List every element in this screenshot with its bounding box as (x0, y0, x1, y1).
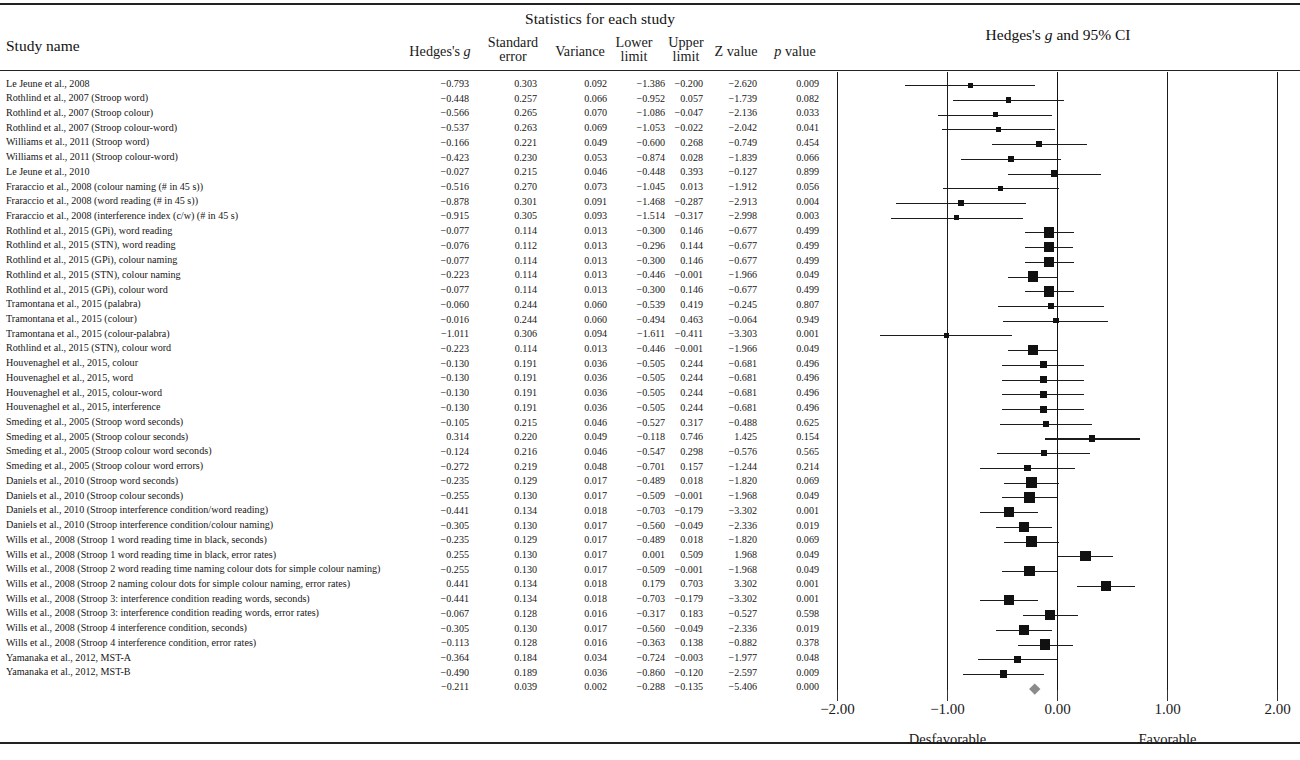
cell-variance: 0.017 (547, 490, 607, 501)
cell-hedges-g: −0.211 (409, 681, 469, 692)
effect-size-marker (944, 333, 949, 338)
cell-standard-error: 0.134 (477, 593, 537, 604)
study-name-cell: Rothlind et al., 2007 (Stroop word) (6, 92, 148, 103)
cell-p-value: 0.499 (759, 255, 819, 266)
table-row: Daniels et al., 2010 (Stroop colour seco… (0, 490, 830, 505)
study-name-cell: Williams et al., 2011 (Stroop colour-wor… (6, 151, 178, 162)
cell-upper-limit: 0.244 (643, 358, 703, 369)
cell-upper-limit: −0.179 (643, 505, 703, 516)
effect-size-marker (1040, 391, 1047, 398)
cell-upper-limit: 0.183 (643, 608, 703, 619)
cell-hedges-g: −0.124 (409, 446, 469, 457)
cell-standard-error: 0.114 (477, 225, 537, 236)
cell-z-value: −3.302 (697, 593, 757, 604)
confidence-interval-line (996, 630, 1052, 631)
effect-size-marker (1006, 97, 1011, 102)
cell-standard-error: 0.244 (477, 299, 537, 310)
confidence-interval-line (980, 512, 1038, 513)
cell-hedges-g: 0.314 (409, 431, 469, 442)
cell-variance: 0.013 (547, 240, 607, 251)
summary-row: −0.2110.0390.002−0.288−0.135−5.4060.000 (0, 681, 830, 696)
cell-standard-error: 0.301 (477, 196, 537, 207)
table-row: Daniels et al., 2010 (Stroop word second… (0, 475, 830, 490)
study-name-cell: Wills et al., 2008 (Stroop 4 interferenc… (6, 622, 247, 633)
cell-standard-error: 0.114 (477, 269, 537, 280)
confidence-interval-line (953, 100, 1064, 101)
cell-variance: 0.048 (547, 461, 607, 472)
col-header-line1: value (781, 43, 815, 59)
cell-upper-limit: −0.001 (643, 269, 703, 280)
study-name-cell: Wills et al., 2008 (Stroop 2 naming colo… (6, 578, 350, 589)
study-name-cell: Houvenaghel et al., 2015, interference (6, 401, 160, 412)
cell-p-value: 0.625 (759, 417, 819, 428)
cell-z-value: −1.820 (697, 534, 757, 545)
cell-hedges-g: −1.011 (409, 328, 469, 339)
cell-z-value: −0.527 (697, 608, 757, 619)
cell-hedges-g: 0.441 (409, 578, 469, 589)
table-row: Smeding et al., 2005 (Stroop word second… (0, 417, 830, 432)
cell-z-value: −1.968 (697, 564, 757, 575)
table-row: Houvenaghel et al., 2015, colour−0.1300.… (0, 358, 830, 373)
cell-upper-limit: 0.317 (643, 417, 703, 428)
cell-hedges-g: 0.255 (409, 549, 469, 560)
effect-size-marker (1014, 656, 1021, 663)
effect-size-marker (993, 112, 998, 117)
cell-z-value: −0.749 (697, 137, 757, 148)
axis-tick-label-2: 0.00 (1018, 701, 1098, 718)
cell-z-value: −1.839 (697, 152, 757, 163)
effect-size-marker (958, 200, 963, 205)
confidence-interval-line (1025, 232, 1074, 233)
cell-variance: 0.017 (547, 534, 607, 545)
cell-p-value: 0.019 (759, 623, 819, 634)
cell-standard-error: 0.244 (477, 314, 537, 325)
table-row: Wills et al., 2008 (Stroop 4 interferenc… (0, 623, 830, 638)
effect-size-marker (1024, 492, 1034, 502)
cell-p-value: 0.056 (759, 181, 819, 192)
cell-upper-limit: 0.703 (643, 578, 703, 589)
confidence-interval-line (1008, 174, 1101, 175)
study-name-cell: Daniels et al., 2010 (Stroop colour seco… (6, 490, 183, 501)
cell-hedges-g: −0.130 (409, 402, 469, 413)
confidence-interval-line (978, 659, 1057, 660)
cell-hedges-g: −0.223 (409, 343, 469, 354)
cell-z-value: −2.620 (697, 78, 757, 89)
table-row: Smeding et al., 2005 (Stroop colour word… (0, 446, 830, 461)
cell-hedges-g: −0.566 (409, 107, 469, 118)
study-name-cell: Fraraccio et al., 2008 (colour naming (#… (6, 181, 203, 192)
cell-variance: 0.092 (547, 78, 607, 89)
effect-size-marker (1036, 141, 1042, 147)
effect-size-marker (1028, 345, 1039, 356)
cell-p-value: 0.598 (759, 608, 819, 619)
cell-z-value: −0.681 (697, 402, 757, 413)
cell-upper-limit: 0.146 (643, 255, 703, 266)
confidence-interval-line (1025, 247, 1073, 248)
cell-z-value: −1.739 (697, 93, 757, 104)
axis-tick-2 (1057, 690, 1058, 701)
table-row: Wills et al., 2008 (Stroop 1 word readin… (0, 549, 830, 564)
cell-upper-limit: −0.179 (643, 593, 703, 604)
cell-z-value: −2.998 (697, 210, 757, 221)
cell-p-value: 0.001 (759, 578, 819, 589)
cell-upper-limit: −0.001 (643, 564, 703, 575)
cell-variance: 0.017 (547, 475, 607, 486)
summary-effect-diamond (1029, 683, 1040, 694)
study-name-cell: Yamanaka et al., 2012, MST-A (6, 652, 131, 663)
study-name-cell: Rothlind et al., 2015 (GPi), word readin… (6, 225, 172, 236)
axis-tick-label-3: 1.00 (1128, 701, 1208, 718)
cell-hedges-g: −0.793 (409, 78, 469, 89)
cell-standard-error: 0.257 (477, 93, 537, 104)
cell-z-value: −0.882 (697, 637, 757, 648)
axis-label-desfavorable: Desfavorable (848, 731, 1048, 748)
cell-p-value: 0.009 (759, 78, 819, 89)
confidence-interval-line (880, 335, 1012, 336)
effect-size-marker (1026, 536, 1036, 546)
cell-standard-error: 0.191 (477, 402, 537, 413)
cell-standard-error: 0.130 (477, 623, 537, 634)
cell-z-value: −0.677 (697, 284, 757, 295)
confidence-interval-line (1008, 277, 1057, 278)
confidence-interval-line (1002, 571, 1058, 572)
cell-z-value: −0.245 (697, 299, 757, 310)
confidence-interval-line (1002, 409, 1084, 410)
cell-upper-limit: −0.287 (643, 196, 703, 207)
cell-z-value: −0.064 (697, 314, 757, 325)
